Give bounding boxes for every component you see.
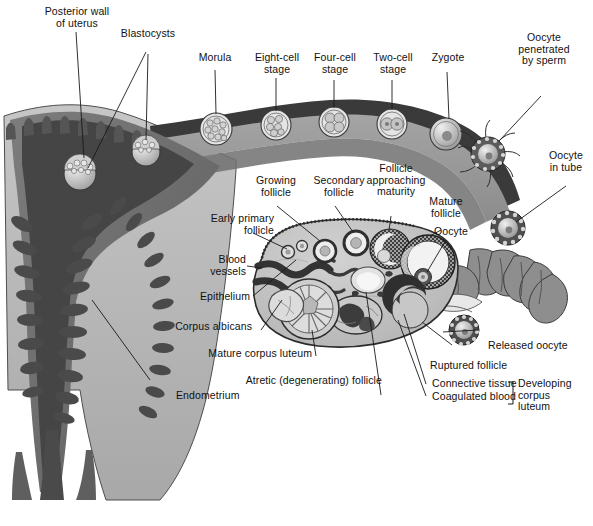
blastocyst-1 [64, 154, 96, 190]
anatomy-illustration [0, 0, 593, 526]
zygote-cell [430, 118, 462, 150]
label-zygote: Zygote [422, 52, 474, 64]
label-oocyte-in-tube: Oocyte in tube [540, 150, 592, 173]
label-mature-follicle: Mature follicle [420, 196, 472, 219]
fimbriae [441, 249, 567, 323]
label-blastocysts: Blastocysts [110, 28, 186, 40]
label-corpus-albicans: Corpus albicans [148, 321, 252, 333]
four-cell-stage-cell [319, 107, 349, 137]
label-blood-vessels: Blood vessels [186, 254, 246, 277]
label-ruptured-follicle: Ruptured follicle [430, 360, 534, 372]
label-endometrium: Endometrium [176, 390, 262, 402]
label-eight-cell-stage: Eight-cell stage [246, 52, 308, 75]
label-coagulated-blood: Coagulated blood [432, 391, 510, 403]
eight-cell-stage-cell [261, 110, 291, 140]
label-posterior-wall-of-uterus: Posterior wall of uterus [24, 6, 130, 29]
label-atretic-follicle: Atretic (degenerating) follicle [200, 375, 382, 387]
morula-cell [200, 113, 232, 145]
corpus-albicans [269, 289, 304, 321]
label-early-primary-follicle: Early primary follicle [182, 213, 274, 236]
label-follicle-approaching-maturity: Follicle approaching maturity [360, 163, 432, 198]
cervix [12, 430, 96, 500]
label-two-cell-stage: Two-cell stage [362, 52, 424, 75]
label-oocyte: Oocyte [434, 226, 486, 238]
label-growing-follicle: Growing follicle [245, 175, 307, 198]
label-morula: Morula [188, 52, 242, 64]
two-cell-stage-cell [377, 109, 407, 139]
figure-canvas: Posterior wall of uterus Blastocysts Mor… [0, 0, 593, 526]
label-connective-tissue: Connective tissue [432, 378, 510, 390]
label-developing-corpus-luteum: Developing corpus luteum [518, 378, 592, 413]
secondary-follicle [344, 231, 368, 255]
label-epithelium: Epithelium [172, 291, 250, 303]
label-released-oocyte: Released oocyte [488, 340, 588, 352]
label-oocyte-penetrated-by-sperm: Oocyte penetrated by sperm [508, 32, 580, 67]
label-four-cell-stage: Four-cell stage [304, 52, 366, 75]
oocyte-in-tube [491, 211, 525, 245]
label-mature-corpus-luteum: Mature corpus luteum [166, 348, 312, 360]
ovary [254, 219, 458, 347]
growing-follicle [314, 240, 336, 262]
